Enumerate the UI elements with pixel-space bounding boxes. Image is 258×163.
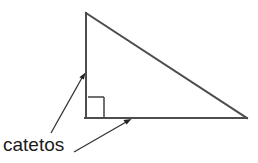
arrow-to-vertical-leg: [51, 73, 86, 134]
hypotenuse-line: [86, 13, 247, 118]
arrow-to-horizontal-leg: [74, 119, 132, 152]
catetos-label: catetos: [3, 134, 64, 156]
right-angle-square-icon: [88, 97, 104, 117]
geometry-figure: catetos: [0, 0, 258, 163]
triangle-shape: [85, 13, 247, 118]
